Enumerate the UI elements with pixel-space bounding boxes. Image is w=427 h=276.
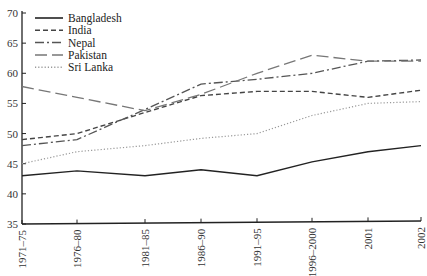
y-tick-label: 40 [7,188,19,200]
y-tick-label: 70 [7,7,19,19]
series-line-india [22,90,421,139]
y-tick-label: 45 [7,158,19,170]
y-tick-label: 35 [7,218,19,230]
x-axis [22,221,421,224]
x-tick-label: 1986–90 [195,228,207,267]
y-tick-label: 60 [7,67,19,79]
legend-label: Bangladesh [68,12,122,25]
legend: BangladeshIndiaNepalPakistanSri Lanka [35,12,122,73]
x-tick-label: 2001 [362,227,374,249]
legend-label: Pakistan [68,49,107,61]
y-tick-label: 65 [7,37,19,49]
x-tick-label: 1996–2000 [306,227,318,276]
y-tick-label: 55 [7,97,19,109]
legend-label: India [68,24,92,36]
x-tick-label: 1991–95 [251,228,263,267]
y-tick-label: 50 [7,128,19,140]
series-line-bangladesh [22,146,421,176]
x-tick-label: 1981–85 [139,229,151,268]
legend-label: Nepal [68,37,95,50]
line-chart: 35404550556065701971–751976–801981–85198… [0,0,427,276]
x-tick-label: 2002 [415,227,427,249]
x-tick-label: 1976–80 [71,229,83,268]
x-tick-label: 1971–75 [16,230,28,269]
legend-label: Sri Lanka [68,61,113,73]
series-lines [22,55,421,176]
